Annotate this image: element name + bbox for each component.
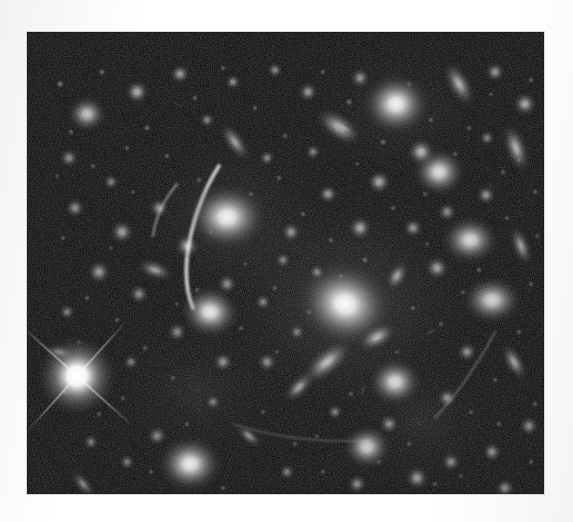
point-source-50 xyxy=(119,394,127,402)
galaxy-062 xyxy=(118,453,136,471)
point-source-61 xyxy=(467,408,475,416)
galaxy-025 xyxy=(475,184,498,207)
galaxy-055 xyxy=(481,441,504,464)
galaxy-079 xyxy=(288,323,306,341)
galaxy-017 xyxy=(297,81,320,104)
galaxy-059 xyxy=(278,463,296,481)
galaxy-028 xyxy=(280,221,303,244)
point-source-14 xyxy=(527,76,535,84)
point-source-54 xyxy=(259,408,267,416)
galaxy-cluster-image xyxy=(27,32,544,494)
point-source-22 xyxy=(275,174,283,182)
galaxy-040 xyxy=(85,258,113,286)
galaxy-051 xyxy=(456,341,479,364)
point-source-43 xyxy=(437,320,445,328)
galaxy-015 xyxy=(224,73,242,91)
galaxy-069 xyxy=(198,111,216,129)
point-source-53 xyxy=(219,484,227,492)
galaxy-050 xyxy=(274,251,292,269)
point-source-12 xyxy=(465,124,473,132)
galaxy-061 xyxy=(146,425,169,448)
galaxy-026 xyxy=(365,168,393,196)
galaxy-057 xyxy=(403,464,431,492)
point-source-35 xyxy=(141,344,149,352)
point-source-36 xyxy=(169,374,177,382)
point-source-62 xyxy=(495,420,503,428)
galaxy-054 xyxy=(518,415,541,438)
point-source-52 xyxy=(183,420,191,428)
point-source-6 xyxy=(281,132,289,140)
foreground-star-with-diffraction-spikes xyxy=(33,332,121,420)
galaxy-027 xyxy=(317,183,340,206)
point-source-5 xyxy=(251,104,259,112)
galaxy-063 xyxy=(82,433,100,451)
point-source-4 xyxy=(219,64,227,72)
galaxy-076 xyxy=(204,393,222,411)
point-source-59 xyxy=(405,440,413,448)
point-source-72 xyxy=(313,432,320,439)
galaxy-023 xyxy=(511,90,539,118)
galaxy-014 xyxy=(169,63,192,86)
galaxy-042 xyxy=(148,197,171,220)
galaxy-070 xyxy=(304,143,322,161)
point-source-8 xyxy=(344,97,353,106)
galaxy-080 xyxy=(478,129,496,147)
page-canvas xyxy=(0,0,573,522)
point-source-15 xyxy=(531,188,539,196)
point-source-56 xyxy=(319,468,327,476)
point-source-3 xyxy=(191,94,199,102)
galaxy-037 xyxy=(212,351,235,374)
galaxy-020 xyxy=(405,136,437,168)
bright-galaxy-s1 xyxy=(365,354,426,409)
galaxy-074 xyxy=(378,413,401,436)
galaxy-012 xyxy=(64,93,110,134)
point-source-45 xyxy=(491,376,499,384)
galaxy-049 xyxy=(254,293,272,311)
galaxy-039 xyxy=(128,283,151,306)
point-source-9 xyxy=(378,137,387,146)
point-source-77 xyxy=(487,90,494,97)
galaxy-041 xyxy=(108,218,136,246)
point-source-20 xyxy=(195,176,203,184)
point-source-60 xyxy=(431,480,439,488)
point-source-57 xyxy=(347,390,355,398)
galaxy-064 xyxy=(58,303,76,321)
galaxy-043 xyxy=(173,232,201,260)
galaxy-022 xyxy=(484,61,507,84)
point-source-76 xyxy=(457,472,464,479)
galaxy-073 xyxy=(436,387,459,410)
point-source-7 xyxy=(319,68,327,76)
galaxy-048 xyxy=(216,273,239,296)
point-source-42 xyxy=(409,304,417,312)
point-source-2 xyxy=(142,123,151,132)
galaxy-056 xyxy=(440,451,463,474)
point-source-63 xyxy=(527,458,535,466)
galaxy-077 xyxy=(122,353,140,371)
point-source-46 xyxy=(515,328,523,336)
point-source-73 xyxy=(353,160,360,167)
point-source-55 xyxy=(291,440,299,448)
point-source-39 xyxy=(271,284,279,292)
galaxy-047 xyxy=(102,173,120,191)
point-source-24 xyxy=(327,236,335,244)
point-source-32 xyxy=(59,234,67,242)
point-source-19 xyxy=(163,152,171,160)
galaxy-031 xyxy=(423,254,451,282)
point-source-0 xyxy=(55,79,65,89)
point-source-66 xyxy=(107,244,114,251)
point-source-34 xyxy=(113,316,121,324)
galaxy-046 xyxy=(58,147,81,170)
point-source-30 xyxy=(503,214,511,222)
galaxy-045 xyxy=(64,197,87,220)
point-source-33 xyxy=(83,294,91,302)
point-source-47 xyxy=(531,400,539,408)
galaxy-013 xyxy=(123,78,151,106)
point-source-13 xyxy=(499,168,507,176)
galaxy-075 xyxy=(326,403,344,421)
point-source-70 xyxy=(241,260,248,267)
point-source-75 xyxy=(423,240,430,247)
galaxy-038 xyxy=(166,321,189,344)
galaxy-036 xyxy=(256,351,279,374)
point-source-26 xyxy=(389,204,397,212)
point-source-79 xyxy=(533,232,540,239)
